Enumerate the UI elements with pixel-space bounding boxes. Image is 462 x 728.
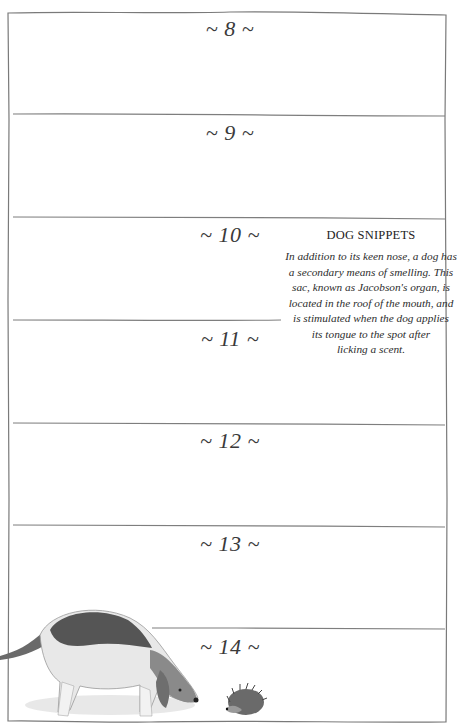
- snippet-line: is stimulated when the dog applies: [285, 311, 457, 327]
- day-label-11: ~ 11 ~: [170, 326, 290, 352]
- snippet-line: sac, known as Jacobson's organ, is: [285, 280, 457, 296]
- snippet-line: In addition to its keen nose, a dog has: [285, 249, 457, 265]
- snippet-line: licking a scent.: [285, 342, 457, 358]
- day-label-13: ~ 13 ~: [170, 531, 290, 557]
- rule-line-4: [13, 423, 445, 425]
- rule-line-2: [13, 217, 445, 219]
- day-label-12: ~ 12 ~: [170, 428, 290, 454]
- snippet-line: its tongue to the spot after: [285, 327, 457, 343]
- snippet-line: a secondary means of smelling. This: [285, 265, 457, 281]
- snippet-line: located in the roof of the mouth, and: [285, 296, 457, 312]
- hedgehog-icon: [226, 683, 267, 715]
- day-label-10: ~ 10 ~: [170, 222, 290, 248]
- day-label-9: ~ 9 ~: [170, 120, 290, 146]
- rule-line-5: [13, 525, 445, 527]
- dog-snippets-box: DOG SNIPPETS In addition to its keen nos…: [285, 228, 457, 358]
- dog-snippets-body: In addition to its keen nose, a dog has …: [285, 249, 457, 358]
- day-label-8: ~ 8 ~: [170, 16, 290, 42]
- rule-line-1: [13, 114, 445, 116]
- dog-snippets-title: DOG SNIPPETS: [285, 228, 457, 243]
- dog-hedgehog-illustration: [0, 590, 300, 725]
- beagle-dog-icon: [0, 610, 199, 716]
